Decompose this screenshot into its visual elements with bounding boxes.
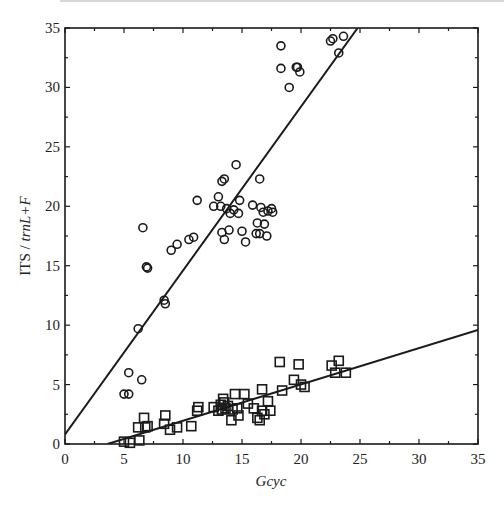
y-axis-label-italic: trnL+F <box>17 196 33 242</box>
x-tick-label: 10 <box>176 451 191 467</box>
circle-point <box>339 32 347 40</box>
data-points <box>120 32 351 447</box>
x-tick-label: 30 <box>412 451 427 467</box>
scatter-chart: 0510152025303505101520253035 Gcyc ITS / … <box>0 0 504 510</box>
circle-point <box>225 226 233 234</box>
y-tick-label: 10 <box>45 317 60 333</box>
y-tick-label: 25 <box>45 139 60 155</box>
y-tick-label: 5 <box>53 377 61 393</box>
circle-point <box>256 175 264 183</box>
fit-line-squares <box>107 330 478 444</box>
x-tick-label: 15 <box>235 451 250 467</box>
x-tick-label: 5 <box>120 451 128 467</box>
circle-point <box>232 161 240 169</box>
circle-point <box>193 196 201 204</box>
square-point <box>230 390 239 399</box>
circle-point <box>138 376 146 384</box>
circle-point <box>214 193 222 201</box>
y-tick-label: 30 <box>45 79 60 95</box>
fit-line-circles <box>65 28 358 434</box>
y-axis-label-main: ITS / <box>17 241 33 275</box>
circle-point <box>139 224 147 232</box>
square-point <box>294 360 303 369</box>
circle-point <box>173 240 181 248</box>
y-tick-label: 15 <box>45 258 60 274</box>
y-tick-label: 35 <box>45 20 60 36</box>
tick-labels: 0510152025303505101520253035 <box>45 20 486 467</box>
y-axis-label: ITS / trnL+F <box>17 196 33 276</box>
circle-point <box>238 227 246 235</box>
square-point <box>275 357 284 366</box>
square-point <box>263 397 272 406</box>
circle-point <box>125 369 133 377</box>
x-tick-label: 0 <box>61 451 69 467</box>
x-tick-label: 20 <box>294 451 309 467</box>
circle-point <box>277 42 285 50</box>
x-tick-label: 25 <box>353 451 368 467</box>
circle-point <box>285 83 293 91</box>
circle-point <box>220 236 228 244</box>
circle-point <box>263 232 271 240</box>
y-tick-label: 20 <box>45 198 60 214</box>
circle-point <box>277 64 285 72</box>
square-point <box>187 422 196 431</box>
x-tick-label: 35 <box>471 451 486 467</box>
circle-point <box>249 201 257 209</box>
circle-point <box>236 196 244 204</box>
x-axis-label: Gcyc <box>256 473 287 489</box>
y-tick-label: 0 <box>53 436 61 452</box>
square-point <box>240 390 249 399</box>
circle-point <box>242 238 250 246</box>
square-point <box>258 385 267 394</box>
